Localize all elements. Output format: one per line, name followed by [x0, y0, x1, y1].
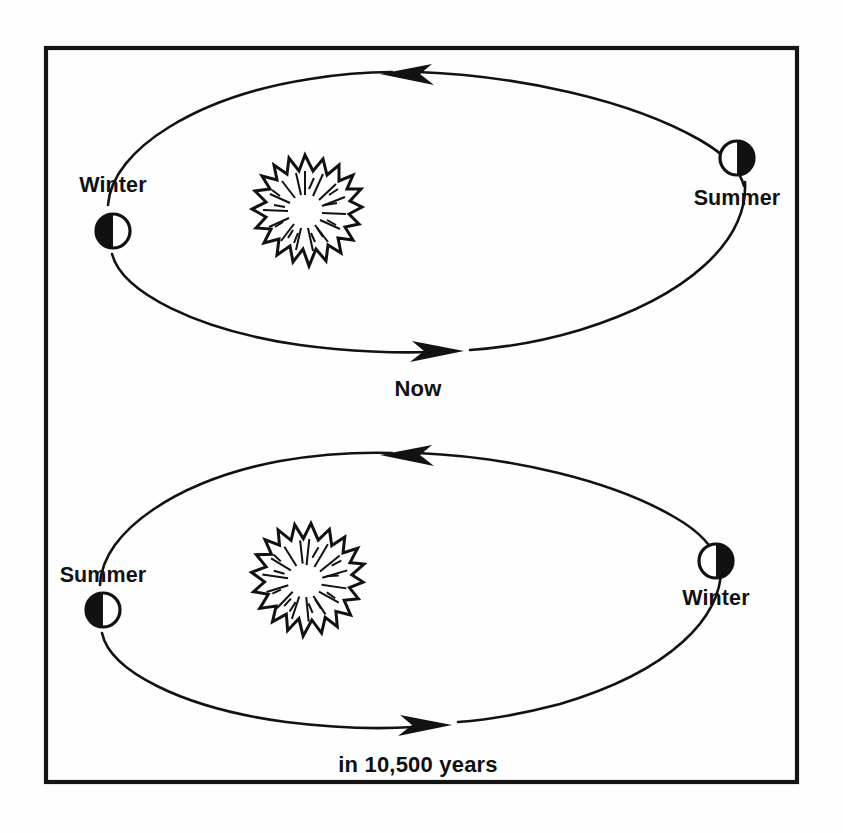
orbit-arc-bottom-left: [112, 254, 428, 352]
orbit-arc-top-right: [418, 72, 744, 186]
earth-half-lit-icon: [699, 544, 733, 578]
label-panel1-right: Summer: [694, 186, 781, 210]
arrow-left-icon: [380, 64, 434, 85]
arrow-left-icon: [380, 445, 434, 466]
label-panel2-right: Winter: [682, 586, 750, 610]
figure-root: Winter Summer Now: [0, 0, 843, 833]
earth-half-lit-icon: [720, 141, 754, 175]
sun-burst-icon: [252, 155, 362, 266]
caption-in-10500-years: in 10,500 years: [338, 752, 498, 777]
orbit-arc-bottom-right: [458, 560, 721, 722]
label-panel1-left: Winter: [79, 173, 147, 197]
caption-now: Now: [394, 376, 442, 401]
label-panel2-left: Summer: [60, 563, 147, 587]
sun-burst-icon: [245, 518, 368, 642]
orbit-precession-diagram: Winter Summer Now: [0, 0, 843, 833]
orbit-arc-top-right: [418, 453, 718, 563]
figure-border: [46, 48, 797, 782]
earth-half-lit-icon: [86, 593, 120, 627]
earth-half-lit-icon: [96, 214, 130, 248]
orbit-arc-bottom-left: [102, 633, 414, 728]
arrow-right-icon: [398, 715, 452, 736]
panel-now: Winter Summer Now: [79, 64, 780, 401]
panel-future: Summer Winter in 10,500 years: [60, 445, 750, 777]
